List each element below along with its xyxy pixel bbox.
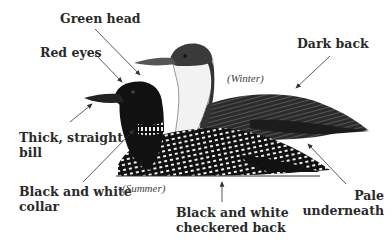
arrow-bill xyxy=(70,104,92,122)
label-pale-line2: underneath xyxy=(303,203,384,218)
label-checkered-line1: Black and white xyxy=(176,205,289,220)
label-bill-line1: Thick, straight xyxy=(19,130,123,145)
label-black-white-collar: Black and white collar xyxy=(19,184,132,214)
label-bill-line2: bill xyxy=(19,145,123,160)
label-checkered-back: Black and white checkered back xyxy=(176,205,289,235)
arrow-dark-back xyxy=(296,56,330,88)
label-thick-straight-bill: Thick, straight bill xyxy=(19,130,123,160)
arrow-green-head xyxy=(95,29,140,75)
label-collar-line1: Black and white xyxy=(19,184,132,199)
label-collar-line2: collar xyxy=(19,199,132,214)
label-pale-underneath: Pale underneath xyxy=(303,188,384,218)
label-green-head: Green head xyxy=(60,11,141,26)
label-red-eyes: Red eyes xyxy=(40,45,102,60)
season-label-summer: (Summer) xyxy=(122,182,165,194)
winter-loon xyxy=(134,44,370,140)
label-dark-back: Dark back xyxy=(297,36,369,51)
label-pale-line1: Pale xyxy=(303,188,384,203)
season-label-winter: (Winter) xyxy=(227,72,264,84)
label-checkered-line2: checkered back xyxy=(176,220,289,235)
